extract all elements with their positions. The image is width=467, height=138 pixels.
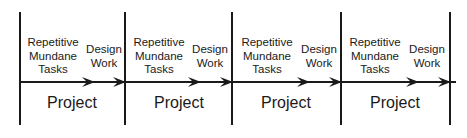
design-work-label: Design Work bbox=[190, 43, 230, 70]
label-line: Work bbox=[299, 57, 339, 71]
separator-line bbox=[124, 12, 126, 125]
design-work-label: Design Work bbox=[299, 43, 339, 70]
label-line: Mundane bbox=[21, 50, 85, 64]
project-label: Project bbox=[27, 94, 117, 112]
separator-line bbox=[449, 12, 451, 125]
label-line: Repetitive bbox=[235, 36, 299, 50]
design-work-label: Design Work bbox=[84, 43, 124, 70]
label-line: Repetitive bbox=[343, 36, 407, 50]
repetitive-mundane-tasks-label: Repetitive Mundane Tasks bbox=[127, 36, 191, 77]
project-label: Project bbox=[350, 94, 440, 112]
label-line: Mundane bbox=[235, 50, 299, 64]
label-line: Work bbox=[84, 57, 124, 71]
repetitive-mundane-tasks-label: Repetitive Mundane Tasks bbox=[21, 36, 85, 77]
label-line: Tasks bbox=[235, 63, 299, 77]
label-line: Tasks bbox=[343, 63, 407, 77]
label-line: Repetitive bbox=[21, 36, 85, 50]
label-line: Tasks bbox=[127, 63, 191, 77]
label-line: Tasks bbox=[21, 63, 85, 77]
label-line: Work bbox=[407, 57, 447, 71]
separator-line bbox=[231, 12, 233, 125]
label-line: Design bbox=[299, 43, 339, 57]
label-line: Design bbox=[84, 43, 124, 57]
repetitive-mundane-tasks-label: Repetitive Mundane Tasks bbox=[343, 36, 407, 77]
design-work-label: Design Work bbox=[407, 43, 447, 70]
project-label: Project bbox=[241, 94, 331, 112]
label-line: Mundane bbox=[127, 50, 191, 64]
repetitive-mundane-tasks-label: Repetitive Mundane Tasks bbox=[235, 36, 299, 77]
label-line: Design bbox=[190, 43, 230, 57]
label-line: Repetitive bbox=[127, 36, 191, 50]
label-line: Mundane bbox=[343, 50, 407, 64]
project-label: Project bbox=[134, 94, 224, 112]
separator-line bbox=[340, 12, 342, 125]
label-line: Design bbox=[407, 43, 447, 57]
label-line: Work bbox=[190, 57, 230, 71]
